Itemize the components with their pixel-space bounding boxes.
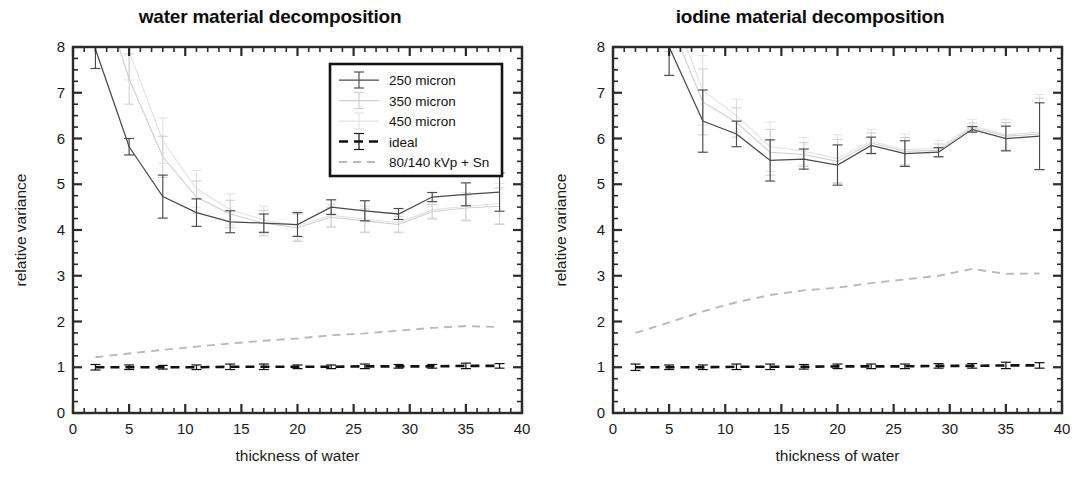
y-tick-label: 3 (597, 267, 605, 284)
series-line (635, 269, 1039, 333)
ticklabels-group: 0510152025303540012345678 (597, 38, 1071, 437)
x-tick-label: 15 (773, 420, 790, 437)
series-250-micron (630, 0, 1044, 185)
x-tick-label: 40 (1054, 420, 1071, 437)
y-tick-label: 1 (597, 358, 605, 375)
y-tick-label: 4 (597, 221, 605, 238)
y-tick-label: 2 (597, 313, 605, 330)
panel-water: water material decomposition 05101520253… (0, 0, 540, 487)
legend-label: 450 micron (389, 114, 456, 129)
x-tick-label: 25 (345, 420, 362, 437)
y-tick-label: 8 (597, 38, 605, 55)
y-tick-label: 3 (57, 267, 65, 284)
x-tick-label: 0 (69, 420, 77, 437)
plot-iodine: 0510152025303540012345678thickness of wa… (540, 0, 1080, 487)
x-axis-label: thickness of water (235, 447, 359, 464)
legend-label: ideal (389, 135, 418, 150)
plot-frame (613, 47, 1062, 413)
y-tick-label: 7 (597, 84, 605, 101)
y-tick-label: 5 (57, 175, 65, 192)
series-ideal (90, 363, 504, 370)
y-tick-label: 6 (57, 130, 65, 147)
x-tick-label: 35 (998, 420, 1015, 437)
plot-water: 0510152025303540012345678thickness of wa… (0, 0, 540, 487)
x-tick-label: 30 (941, 420, 958, 437)
x-tick-label: 20 (289, 420, 306, 437)
x-axis-label: thickness of water (775, 447, 899, 464)
figure-container: water material decomposition 05101520253… (0, 0, 1080, 487)
x-tick-label: 10 (717, 420, 734, 437)
panel-iodine: iodine material decomposition 0510152025… (540, 0, 1080, 487)
series-ideal (630, 362, 1044, 370)
x-tick-label: 25 (885, 420, 902, 437)
y-tick-label: 1 (57, 358, 65, 375)
x-tick-label: 20 (829, 420, 846, 437)
y-tick-label: 0 (597, 404, 605, 421)
ticks-group (613, 47, 1062, 413)
x-tick-label: 15 (233, 420, 250, 437)
x-tick-label: 10 (177, 420, 194, 437)
y-tick-label: 4 (57, 221, 65, 238)
legend-label: 80/140 kVp + Sn (389, 155, 489, 170)
y-tick-label: 8 (57, 38, 65, 55)
x-tick-label: 30 (401, 420, 418, 437)
series-80-140-kvp-sn (95, 326, 499, 357)
series-80-140-kvp-sn (635, 269, 1039, 333)
x-tick-label: 5 (125, 420, 133, 437)
y-tick-label: 2 (57, 313, 65, 330)
y-axis-label: relative variance (552, 174, 569, 287)
y-axis-label: relative variance (12, 174, 29, 287)
x-tick-label: 35 (458, 420, 475, 437)
legend-label: 250 micron (389, 73, 456, 88)
y-tick-label: 7 (57, 84, 65, 101)
y-tick-label: 5 (597, 175, 605, 192)
x-tick-label: 0 (609, 420, 617, 437)
series-line (95, 326, 499, 357)
legend-label: 350 micron (389, 94, 456, 109)
y-tick-label: 0 (57, 404, 65, 421)
y-tick-label: 6 (597, 130, 605, 147)
x-tick-label: 5 (665, 420, 673, 437)
legend: 250 micron350 micron450 micronideal80/14… (330, 64, 502, 176)
x-tick-label: 40 (514, 420, 531, 437)
